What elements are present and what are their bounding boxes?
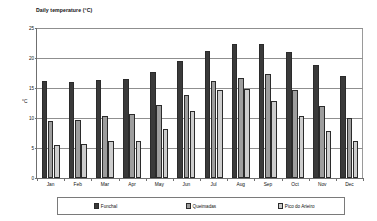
bar <box>75 120 81 178</box>
x-tick-mark <box>282 178 283 181</box>
bar <box>177 61 183 178</box>
bar-group <box>91 28 118 178</box>
x-tick-mark <box>91 178 92 181</box>
bar <box>136 141 142 178</box>
y-tick-label: 5 <box>31 146 34 151</box>
bar <box>205 51 211 178</box>
bar <box>340 76 346 178</box>
bar <box>353 141 359 178</box>
x-tick-mark <box>309 178 310 181</box>
x-tick-mark <box>200 178 201 181</box>
x-tick-mark <box>64 178 65 181</box>
bar <box>299 116 305 178</box>
bar <box>347 118 353 178</box>
bar <box>81 144 87 178</box>
y-tick-label: 10 <box>29 116 34 121</box>
bar <box>238 78 244 178</box>
legend-entry[interactable]: Pico do Arieiro <box>249 203 344 208</box>
bar-group <box>119 28 146 178</box>
y-tick-label: 25 <box>29 26 34 31</box>
bar <box>326 131 332 178</box>
legend-entry[interactable]: Queimadas <box>153 203 248 208</box>
bar <box>211 81 217 178</box>
bar <box>42 81 48 178</box>
x-tick-label: Mar <box>101 182 109 187</box>
bar <box>102 116 108 178</box>
bar <box>232 44 238 178</box>
bar <box>259 44 265 178</box>
bar <box>286 52 292 178</box>
y-axis-title: °C <box>22 99 27 104</box>
x-tick-mark <box>173 178 174 181</box>
legend-label: Queimadas <box>193 204 217 209</box>
x-tick-mark <box>363 178 364 181</box>
chart-legend: FunchalQueimadasPico do Arieiro <box>57 197 345 215</box>
x-tick-label: Oct <box>291 182 298 187</box>
bar <box>96 80 102 178</box>
bar-group <box>309 28 336 178</box>
bar-group <box>200 28 227 178</box>
x-tick-label: Jul <box>211 182 217 187</box>
bar-group <box>336 28 363 178</box>
bar-group <box>37 28 64 178</box>
bar <box>184 95 190 178</box>
bar <box>271 101 277 178</box>
x-tick-mark <box>227 178 228 181</box>
bar-group <box>254 28 281 178</box>
x-tick-label: May <box>155 182 164 187</box>
x-tick-label: Feb <box>74 182 82 187</box>
x-tick-label: Nov <box>318 182 327 187</box>
bar <box>265 74 271 178</box>
legend-swatch-icon <box>94 203 99 208</box>
bar <box>319 106 325 178</box>
bar <box>48 121 54 178</box>
legend-entry[interactable]: Funchal <box>58 203 153 208</box>
x-tick-mark <box>254 178 255 181</box>
bar-group <box>282 28 309 178</box>
x-tick-mark <box>119 178 120 181</box>
x-tick-label: Jun <box>183 182 191 187</box>
bar <box>108 141 114 178</box>
legend-swatch-icon <box>186 203 191 208</box>
bar <box>190 111 196 178</box>
chart-title: Daily temperature (°C) <box>36 7 92 13</box>
bar-group <box>64 28 91 178</box>
bar <box>123 79 129 178</box>
bar-group <box>227 28 254 178</box>
bar <box>156 105 162 178</box>
bar <box>313 65 319 178</box>
legend-label: Funchal <box>101 204 117 209</box>
bar <box>150 72 156 178</box>
x-tick-label: Dec <box>345 182 354 187</box>
bar <box>163 129 169 178</box>
y-tick-label: 0 <box>31 176 34 181</box>
x-tick-mark <box>37 178 38 181</box>
x-tick-label: Jan <box>47 182 55 187</box>
daily-temperature-chart: Daily temperature (°C) °C 0510152025 Jan… <box>0 0 377 221</box>
legend-label: Pico do Arieiro <box>285 204 315 209</box>
y-tick-label: 20 <box>29 56 34 61</box>
y-tick-label: 15 <box>29 86 34 91</box>
bar <box>217 90 223 178</box>
bar-group <box>146 28 173 178</box>
bar <box>292 90 298 178</box>
plot-area: 0510152025 JanFebMarAprMayJunJulAugSepOc… <box>36 28 363 179</box>
bar <box>129 114 135 178</box>
x-tick-mark <box>336 178 337 181</box>
x-tick-label: Sep <box>264 182 273 187</box>
x-tick-label: Apr <box>128 182 135 187</box>
bar <box>54 145 60 178</box>
bar-group <box>173 28 200 178</box>
bar <box>69 82 75 178</box>
x-tick-mark <box>146 178 147 181</box>
x-tick-label: Aug <box>236 182 245 187</box>
legend-swatch-icon <box>278 203 283 208</box>
bar <box>244 89 250 178</box>
